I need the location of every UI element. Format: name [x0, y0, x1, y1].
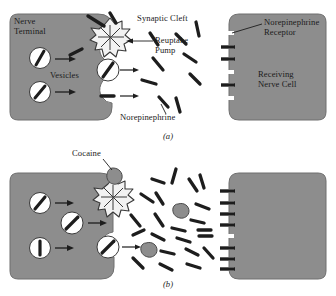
panel-b-caption: (b) — [163, 279, 173, 289]
vesicle-fusing — [97, 236, 119, 258]
panel-b: Cocaine (b) — [0, 148, 336, 296]
panel-a: Nerve Terminal Vesicles Synaptic Cleft R… — [0, 0, 336, 148]
vesicle-fusing — [97, 59, 119, 81]
release-arrow — [122, 245, 141, 250]
receiving-nerve-cell — [229, 173, 326, 279]
cocaine-molecule — [173, 203, 189, 218]
vesicle — [30, 82, 51, 103]
vesicle — [30, 193, 51, 214]
label-nerve-terminal: Nerve Terminal — [14, 17, 46, 37]
release-arrow — [120, 68, 139, 73]
label-norepinephrine: Norepinephrine — [120, 113, 175, 123]
panel-b-graphic — [0, 148, 336, 296]
label-synaptic-cleft: Synaptic Cleft — [137, 14, 188, 24]
cocaine-molecule — [141, 242, 157, 257]
vesicle — [30, 48, 51, 69]
label-receiving-nerve-cell: Receiving Nerve Cell — [258, 70, 296, 90]
label-cocaine: Cocaine — [72, 149, 101, 159]
cocaine-synapse-diagram: Nerve Terminal Vesicles Synaptic Cleft R… — [0, 0, 336, 296]
vesicle — [61, 212, 83, 234]
release-arrow — [120, 94, 139, 99]
panel-a-caption: (a) — [163, 131, 173, 141]
label-norepinephrine-receptor: Norepinephrine Receptor — [264, 18, 319, 38]
vesicle — [30, 238, 51, 259]
leader-line-cocaine — [103, 159, 112, 170]
label-vesicles: Vesicles — [50, 71, 79, 81]
label-reuptake-pump: Reuptake Pump — [155, 36, 188, 56]
cocaine-molecule — [107, 168, 122, 184]
